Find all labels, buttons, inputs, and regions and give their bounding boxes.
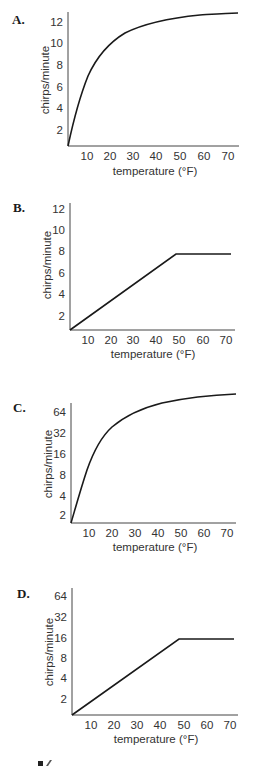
x-tick-labels: 10 20 30 40 50 60 70: [81, 150, 235, 162]
chart-a: A. 12 10 8 6 4 2 10 20 30 40 50 60 70 te…: [12, 12, 239, 177]
svg-text:50: 50: [174, 150, 187, 162]
chart-d: D. 64 32 16 8 4 2 10 20 30 40 50 60 70 t…: [17, 586, 238, 745]
y-axis-title: chirps/minute: [41, 231, 53, 299]
y-axis-title: chirps/minute: [39, 46, 51, 114]
y-axis-title: chirps/minute: [43, 618, 55, 686]
svg-text:4: 4: [57, 102, 64, 114]
svg-text:60: 60: [197, 334, 210, 346]
x-axis-title: temperature (°F): [114, 733, 199, 745]
panel-letter-d: D.: [17, 586, 30, 601]
svg-text:70: 70: [224, 719, 237, 731]
svg-text:70: 70: [220, 334, 233, 346]
panel-letter-c: C.: [13, 400, 26, 415]
svg-text:50: 50: [175, 527, 188, 539]
svg-text:40: 40: [152, 527, 165, 539]
x-axis-title: temperature (°F): [111, 348, 196, 360]
svg-text:8: 8: [60, 469, 66, 481]
answer-choice-charts: A. 12 10 8 6 4 2 10 20 30 40 50 60 70 te…: [0, 0, 265, 766]
svg-text:40: 40: [150, 150, 163, 162]
svg-text:60: 60: [198, 527, 211, 539]
x-tick-labels: 10 20 30 40 50 60 70: [85, 719, 237, 731]
x-tick-labels: 10 20 30 40 50 60 70: [83, 527, 234, 539]
svg-text:2: 2: [61, 693, 67, 705]
svg-text:10: 10: [52, 224, 65, 236]
svg-text:20: 20: [105, 334, 118, 346]
svg-text:40: 40: [154, 719, 167, 731]
svg-text:40: 40: [150, 334, 163, 346]
svg-text:10: 10: [83, 527, 96, 539]
svg-text:4: 4: [61, 672, 68, 684]
svg-text:64: 64: [54, 590, 67, 602]
svg-text:20: 20: [104, 150, 117, 162]
y-tick-labels: 64 32 16 8 4 2: [53, 406, 66, 521]
svg-text:4: 4: [59, 288, 66, 300]
svg-text:70: 70: [221, 527, 234, 539]
x-tick-labels: 10 20 30 40 50 60 70: [82, 334, 233, 346]
y-tick-labels: 12 10 8 6 4 2: [52, 203, 65, 322]
svg-text:10: 10: [82, 334, 95, 346]
data-curve: [68, 13, 238, 146]
scan-artifact: [38, 760, 52, 766]
svg-text:32: 32: [54, 611, 67, 623]
svg-text:30: 30: [127, 334, 140, 346]
x-axis-title: temperature (°F): [113, 541, 198, 553]
svg-text:12: 12: [50, 16, 63, 28]
chart-b: B. 12 10 8 6 4 2 10 20 30 40 50 60 70 te…: [13, 200, 235, 360]
svg-text:30: 30: [129, 527, 142, 539]
chart-c: C. 64 32 16 8 4 2 10 20 30 40 50 60 70 t…: [13, 394, 236, 553]
panel-letter-a: A.: [12, 12, 25, 27]
svg-text:2: 2: [59, 310, 65, 322]
data-line: [70, 254, 231, 330]
svg-text:50: 50: [173, 334, 186, 346]
svg-text:64: 64: [53, 406, 66, 418]
svg-text:16: 16: [53, 448, 66, 460]
data-line: [72, 639, 234, 715]
svg-text:30: 30: [131, 719, 144, 731]
svg-text:30: 30: [127, 150, 140, 162]
svg-text:10: 10: [50, 37, 63, 49]
svg-text:6: 6: [57, 81, 63, 93]
svg-text:10: 10: [81, 150, 94, 162]
y-tick-labels: 12 10 8 6 4 2: [50, 16, 63, 136]
svg-text:8: 8: [61, 652, 67, 664]
x-axis-title: temperature (°F): [113, 165, 198, 177]
svg-text:60: 60: [201, 719, 214, 731]
svg-text:16: 16: [54, 632, 67, 644]
svg-text:20: 20: [108, 719, 121, 731]
svg-text:2: 2: [57, 124, 63, 136]
svg-text:4: 4: [60, 490, 67, 502]
data-curve: [71, 394, 236, 523]
svg-text:10: 10: [85, 719, 98, 731]
y-tick-labels: 64 32 16 8 4 2: [54, 590, 67, 705]
svg-text:6: 6: [59, 267, 65, 279]
svg-text:70: 70: [222, 150, 235, 162]
svg-text:8: 8: [59, 245, 65, 257]
svg-text:50: 50: [178, 719, 191, 731]
y-axis-title: chirps/minute: [42, 430, 54, 498]
svg-text:60: 60: [198, 150, 211, 162]
svg-text:8: 8: [57, 59, 63, 71]
svg-text:2: 2: [60, 509, 66, 521]
svg-text:12: 12: [52, 203, 65, 215]
svg-text:32: 32: [53, 427, 66, 439]
panel-letter-b: B.: [13, 200, 25, 215]
svg-text:20: 20: [106, 527, 119, 539]
